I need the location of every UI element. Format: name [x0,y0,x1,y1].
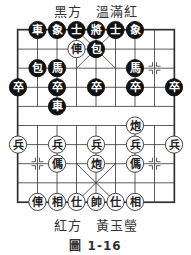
piece-label: 兵 [91,138,102,152]
piece-label: 士 [110,23,121,37]
piece-label: 車 [52,99,63,113]
piece-label: 兵 [52,138,63,152]
black-piece[interactable]: 士 [68,21,85,38]
black-piece[interactable]: 卒 [9,79,26,96]
piece-label: 兵 [130,138,141,152]
red-piece[interactable]: 傌 [48,155,65,172]
red-piece[interactable]: 兵 [48,136,65,153]
piece-label: 仕 [70,195,82,209]
piece-label: 炮 [130,119,141,133]
black-piece[interactable]: 象 [126,21,143,38]
red-piece[interactable]: 帥 [87,193,104,210]
piece-label: 將 [91,23,102,37]
piece-label: 包 [90,42,102,56]
piece-label: 相 [130,195,141,209]
piece-label: 傌 [129,157,141,171]
piece-label: 炮 [91,157,102,171]
red-piece[interactable]: 相 [126,193,143,210]
piece-label: 士 [71,23,82,37]
red-piece[interactable]: 仕 [68,193,85,210]
piece-label: 傌 [51,157,63,171]
piece-label: 卒 [13,80,24,94]
piece-label: 卒 [169,80,180,94]
black-piece[interactable]: 卒 [87,79,104,96]
black-piece[interactable]: 卒 [126,79,143,96]
black-piece[interactable]: 士 [107,21,124,38]
red-piece[interactable]: 兵 [126,136,143,153]
red-piece[interactable]: 炮 [87,155,104,172]
piece-label: 相 [52,195,63,209]
piece-label: 卒 [130,80,141,94]
black-piece[interactable]: 卒 [48,79,65,96]
piece-label: 仕 [109,195,121,209]
red-piece[interactable]: 兵 [9,136,26,153]
black-piece[interactable]: 象 [48,21,65,38]
red-piece[interactable]: 仕 [107,193,124,210]
red-piece[interactable]: 炮 [126,117,143,134]
red-side-label: 紅方 黃玉瑩 [0,215,191,234]
black-piece[interactable]: 車 [29,21,46,38]
piece-label: 象 [130,23,141,37]
red-piece[interactable]: 俥 [29,193,46,210]
piece-label: 兵 [13,138,24,152]
piece-label: 帥 [91,195,102,209]
red-piece[interactable]: 傌 [126,155,143,172]
piece-label: 俥 [31,195,43,209]
figure-caption: 圖 1-16 [0,236,191,253]
black-piece[interactable]: 包 [87,41,104,58]
piece-label: 馬 [52,62,63,75]
piece-label: 馬 [130,62,141,75]
piece-label: 卒 [91,80,102,94]
black-piece[interactable]: 包 [29,60,46,77]
piece-label: 俥 [70,42,82,56]
black-piece[interactable]: 卒 [165,79,182,96]
piece-label: 兵 [169,138,180,152]
piece-label: 卒 [52,80,63,94]
piece-label: 象 [52,23,63,37]
black-piece[interactable]: 馬 [48,60,65,77]
red-piece[interactable]: 相 [48,193,65,210]
black-piece[interactable]: 馬 [126,60,143,77]
piece-label: 包 [31,61,43,75]
black-piece[interactable]: 車 [48,98,65,115]
red-piece[interactable]: 兵 [165,136,182,153]
piece-label: 車 [32,23,43,37]
red-piece[interactable]: 俥 [68,41,85,58]
black-piece[interactable]: 將 [87,21,104,38]
red-piece[interactable]: 兵 [87,136,104,153]
